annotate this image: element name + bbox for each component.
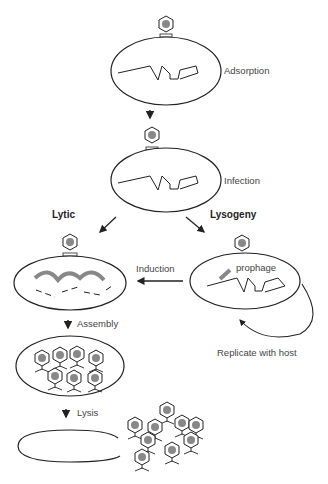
phage-life-cycle-diagram: Adsorption Infection Lytic Lysogeny Indu… [0, 0, 328, 484]
label-replicate-with-host: Replicate with host [217, 347, 297, 358]
label-lytic: Lytic [52, 209, 75, 220]
infection-stage [111, 127, 221, 212]
lysogeny-stage [190, 235, 313, 337]
label-adsorption: Adsorption [224, 65, 269, 76]
adsorption-stage [111, 16, 221, 105]
label-induction: Induction [136, 263, 175, 274]
lytic-stage [14, 234, 126, 310]
label-lysis: Lysis [77, 407, 98, 418]
lysis-stage [18, 402, 203, 471]
label-prophage: prophage [236, 262, 276, 273]
label-infection: Infection [224, 175, 260, 186]
label-assembly: Assembly [77, 318, 118, 329]
label-lysogeny: Lysogeny [210, 209, 256, 220]
assembly-stage [16, 336, 124, 396]
diagram-graphics [0, 0, 328, 484]
